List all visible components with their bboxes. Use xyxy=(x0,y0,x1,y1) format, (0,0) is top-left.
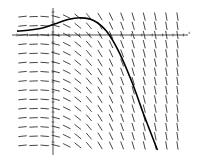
slope-segment xyxy=(143,95,145,103)
slope-segment xyxy=(121,105,124,113)
slope-segment xyxy=(63,52,71,56)
slope-segment xyxy=(154,22,156,30)
slope-segment xyxy=(75,134,82,139)
slope-segment xyxy=(18,25,26,26)
slope-segment xyxy=(143,86,145,94)
slope-segment xyxy=(177,141,178,149)
slope-segment xyxy=(75,42,82,47)
slope-segment xyxy=(75,78,82,83)
slope-segment xyxy=(177,86,178,94)
slope-segment xyxy=(143,22,145,30)
slope-segment xyxy=(109,105,113,113)
slope-segment xyxy=(86,41,91,47)
slope-segment xyxy=(154,58,156,66)
slope-segment xyxy=(18,117,26,118)
slope-segment xyxy=(166,22,167,30)
slope-segment xyxy=(63,116,71,120)
slope-segment xyxy=(40,62,48,63)
slope-segment xyxy=(109,96,113,104)
slope-segment xyxy=(121,86,124,94)
slope-field-segments xyxy=(18,12,178,149)
slope-segment xyxy=(154,114,156,122)
slope-segment xyxy=(40,44,48,45)
slope-segment xyxy=(166,95,167,103)
slope-segment xyxy=(86,69,91,75)
slope-segment xyxy=(177,12,178,20)
slope-segment xyxy=(109,13,113,21)
slope-segment xyxy=(86,105,91,111)
slope-segment xyxy=(154,40,156,48)
slope-segment xyxy=(143,105,145,113)
slope-segment xyxy=(63,144,71,148)
direction-field-plot: x xyxy=(0,0,199,163)
slope-segment xyxy=(143,59,145,67)
slope-segment xyxy=(98,41,102,48)
slope-segment xyxy=(132,22,134,30)
slope-segment xyxy=(18,44,26,45)
slope-segment xyxy=(177,132,178,140)
slope-segment xyxy=(98,50,102,57)
slope-segment xyxy=(154,12,156,20)
slope-segment xyxy=(166,132,167,140)
slope-segment xyxy=(18,71,26,72)
slope-segment xyxy=(177,58,178,66)
slope-segment xyxy=(75,115,82,120)
slope-segment xyxy=(132,114,134,122)
slope-segment xyxy=(143,123,145,131)
slope-segment xyxy=(154,68,156,76)
slope-segment xyxy=(18,136,26,137)
slope-segment xyxy=(75,60,82,65)
slope-segment xyxy=(166,58,167,66)
slope-segment xyxy=(86,59,91,65)
slope-segment xyxy=(132,95,134,103)
slope-segment xyxy=(40,71,48,72)
x-axis-label: x xyxy=(188,30,191,35)
slope-segment xyxy=(63,24,71,28)
slope-segment xyxy=(109,22,113,30)
slope-segment xyxy=(40,81,48,82)
slope-segment xyxy=(109,132,113,140)
slope-segment xyxy=(109,59,113,67)
slope-segment xyxy=(166,40,167,48)
slope-segment xyxy=(18,99,26,100)
slope-segment xyxy=(132,13,134,21)
slope-segment xyxy=(177,49,178,57)
slope-segment xyxy=(121,114,124,122)
slope-segment xyxy=(98,77,102,84)
slope-segment xyxy=(143,77,145,85)
slope-segment xyxy=(166,141,167,149)
slope-segment xyxy=(40,136,48,137)
slope-segment xyxy=(86,87,91,93)
slope-segment xyxy=(63,15,71,19)
slope-segment xyxy=(63,134,71,138)
slope-segment xyxy=(86,50,91,56)
slope-segment xyxy=(40,117,48,118)
slope-segment xyxy=(98,123,102,130)
slope-segment xyxy=(18,53,26,54)
slope-segment xyxy=(132,123,134,131)
slope-segment xyxy=(132,141,134,149)
slope-segment xyxy=(143,141,145,149)
slope-segment xyxy=(121,123,124,131)
slope-segment xyxy=(143,40,145,48)
slope-segment xyxy=(40,16,48,17)
slope-segment xyxy=(121,77,124,85)
slope-segment xyxy=(166,49,167,57)
slope-segment xyxy=(109,68,113,76)
slope-segment xyxy=(154,104,156,112)
slope-segment xyxy=(177,22,178,30)
slope-segment xyxy=(40,127,48,128)
slope-segment xyxy=(121,68,124,76)
slope-segment xyxy=(18,145,26,146)
slope-segment xyxy=(98,133,102,140)
slope-segment xyxy=(121,141,124,149)
slope-segment xyxy=(166,77,167,85)
slope-segment xyxy=(132,132,134,140)
slope-segment xyxy=(143,49,145,57)
slope-segment xyxy=(86,78,91,84)
slope-segment xyxy=(109,123,113,131)
slope-segment xyxy=(86,23,91,29)
slope-segment xyxy=(177,40,178,48)
slope-segment xyxy=(121,40,124,48)
slope-segment xyxy=(166,114,167,122)
